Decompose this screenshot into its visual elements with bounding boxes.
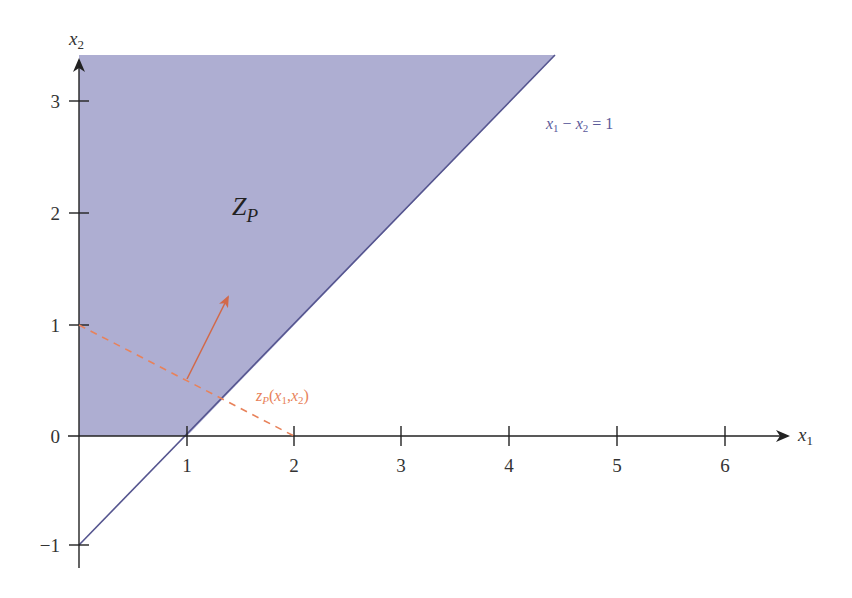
y-tick-label: −1 <box>40 535 60 556</box>
objective-label: zP(x1,x2) <box>255 387 309 406</box>
y-axis-label: x2 <box>68 28 84 52</box>
x-tick-label: 5 <box>612 455 622 476</box>
y-tick-label: 3 <box>51 91 61 112</box>
lp-feasible-region-diagram: 1 2 3 4 5 6 3 2 1 0 −1 x2 x1 ZP x1 − x2 … <box>0 0 852 598</box>
x-tick-label: 4 <box>504 455 514 476</box>
feasible-region <box>79 55 555 436</box>
x-axis-label: x1 <box>797 424 813 448</box>
x-tick-label: 6 <box>720 455 730 476</box>
y-tick-label: 1 <box>51 315 61 336</box>
constraint-label: x1 − x2 = 1 <box>545 115 613 134</box>
y-tick-label: 2 <box>51 203 61 224</box>
x-tick-label: 2 <box>289 455 299 476</box>
x-tick-label: 3 <box>396 455 406 476</box>
x-tick-label: 1 <box>182 455 192 476</box>
y-tick-label: 0 <box>51 426 61 447</box>
